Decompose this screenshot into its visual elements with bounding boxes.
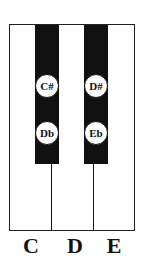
note-label-e-flat: Eb [89, 127, 102, 139]
white-key-label-d: D [60, 233, 90, 259]
note-circle-sharp: C# [35, 74, 59, 98]
white-key-label-c: C [16, 233, 46, 259]
note-label-c-sharp: C# [40, 80, 53, 92]
black-key-d-sharp: D# Eb [84, 25, 108, 164]
note-label-d-flat: Db [40, 127, 54, 139]
black-key-c-sharp: C# Db [35, 25, 59, 164]
note-label-d-sharp: D# [89, 80, 102, 92]
note-circle-flat: Eb [84, 121, 108, 145]
note-circle-flat: Db [35, 121, 59, 145]
white-key-label-e: E [99, 233, 129, 259]
piano-keyboard: C# Db D# Eb [9, 24, 135, 231]
note-circle-sharp: D# [84, 74, 108, 98]
